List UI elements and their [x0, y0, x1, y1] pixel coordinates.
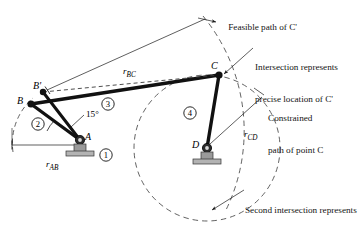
leader-feasible-path — [198, 18, 216, 22]
point-label-D: D — [192, 139, 199, 151]
annotation-constrained-line2: path of point C — [268, 145, 323, 156]
point-label-B: B — [17, 95, 23, 107]
link-number-2: 2 — [32, 119, 44, 129]
dimension-label-rCD: rCD — [235, 118, 258, 153]
joint-B — [27, 100, 34, 107]
point-label-Bprime: B' — [33, 80, 41, 92]
dimension-subscript-rAB: AB — [50, 163, 59, 171]
angle-arc-15 — [47, 121, 54, 131]
pivot-D-ground-base — [193, 159, 221, 164]
dimension-subscript-rCD: CD — [248, 133, 258, 141]
point-label-A: A — [85, 131, 91, 143]
figure-canvas: Feasible path of C' Intersection represe… — [0, 0, 364, 234]
link-number-1: 1 — [100, 150, 112, 160]
link-number-4: 4 — [184, 108, 196, 118]
pivot-A-ground-base — [66, 151, 94, 156]
annotation-feasible-path: Feasible path of C' — [219, 11, 297, 44]
point-label-C: C — [211, 60, 218, 72]
joint-C — [215, 71, 222, 78]
dimension-label-rAB: rAB — [37, 148, 58, 183]
pivot-D-bore — [205, 146, 209, 150]
link-number-3: 3 — [102, 99, 114, 109]
annotation-second-line1: Second intersection represents — [245, 205, 357, 216]
dimension-subscript-rBC: BC — [127, 70, 136, 78]
arc-feasible-path-of-Cprime — [203, 16, 244, 212]
pivot-A-bore — [78, 138, 82, 142]
dimension-label-rBC: rBC — [114, 55, 136, 90]
angle-label-15deg: 15° — [86, 109, 99, 120]
leader-intersection — [224, 48, 253, 74]
annotation-constrained-line1: Constrained — [268, 113, 323, 124]
annotation-intersection-line1: Intersection represents — [255, 62, 338, 73]
annotation-second-intersection: Second intersection represents another g… — [245, 183, 357, 234]
leader-angle-15 — [71, 115, 84, 127]
annotation-constrained-path: Constrained path of point C — [268, 91, 323, 178]
leader-second-intersection — [212, 190, 244, 210]
